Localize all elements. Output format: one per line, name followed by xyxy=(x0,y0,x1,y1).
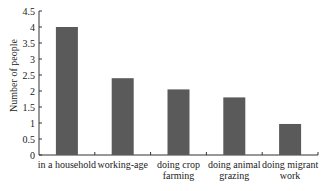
y-tick-label: 0.5 xyxy=(23,134,36,145)
y-axis-label: Number of people xyxy=(8,31,19,121)
y-tick-label: 4.5 xyxy=(23,6,36,17)
bars xyxy=(56,27,301,155)
y-tick-label: 2 xyxy=(30,86,35,97)
bar xyxy=(223,97,245,155)
bar xyxy=(112,78,134,155)
x-tick-label: doing migrantwork xyxy=(254,159,326,181)
bar xyxy=(279,124,301,155)
y-tick-label: 3 xyxy=(30,54,35,65)
y-tick-label: 3.5 xyxy=(23,38,36,49)
y-tick-label: 4 xyxy=(30,22,35,33)
y-tick-label: 2.5 xyxy=(23,70,36,81)
y-tick-label: 1 xyxy=(30,118,35,129)
bar xyxy=(168,89,190,155)
y-tick-label: 1.5 xyxy=(23,102,36,113)
bar xyxy=(56,27,78,155)
